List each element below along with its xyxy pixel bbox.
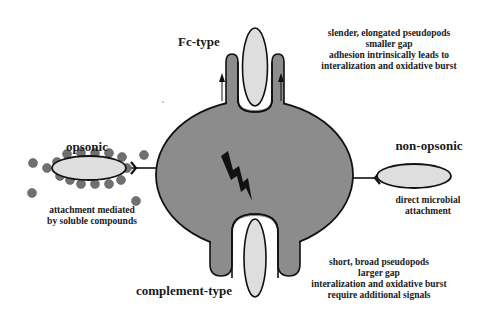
complement-type-title: complement-type [136,283,232,299]
non-opsonic-title: non-opsonic [384,138,474,154]
non-opsonic-receptor [353,172,380,184]
up-arrow-icon [219,73,225,101]
opsonic-line: by soluble compounds [24,216,160,227]
fc-type-line: interalization and oxidative burst [294,61,483,72]
non-opsonic-description: direct microbial attachment [388,195,468,217]
opsonic-microbe [52,156,126,180]
fc-type-title: Fc-type [178,34,220,50]
phagocytosis-diagram: Fc-type slender, elongated pseudopods sm… [0,0,483,315]
fc-type-line: slender, elongated pseudopods [294,28,483,39]
non-opsonic-line: attachment [388,206,468,217]
fc-microbe [243,28,268,106]
complement-type-line: require additional signals [284,290,474,301]
fc-type-line: adhesion intrinsically leads to [294,50,483,61]
opsonic-receptor [130,162,156,174]
complement-type-description: short, broad pseudopods larger gap inter… [284,257,474,301]
non-opsonic-line: direct microbial [388,195,468,206]
complement-microbe [244,219,266,297]
complement-type-line: larger gap [284,268,474,279]
complement-type-line: interalization and oxidative burst [284,279,474,290]
opsonic-title: opsonic [46,139,128,155]
fc-type-description: slender, elongated pseudopods smaller ga… [294,28,483,72]
fc-type-line: smaller gap [294,39,483,50]
complement-type-line: short, broad pseudopods [284,257,474,268]
non-opsonic-microbe [377,164,451,188]
opsonic-description: attachment mediated by soluble compounds [24,205,160,227]
opsonic-line: attachment mediated [24,205,160,216]
